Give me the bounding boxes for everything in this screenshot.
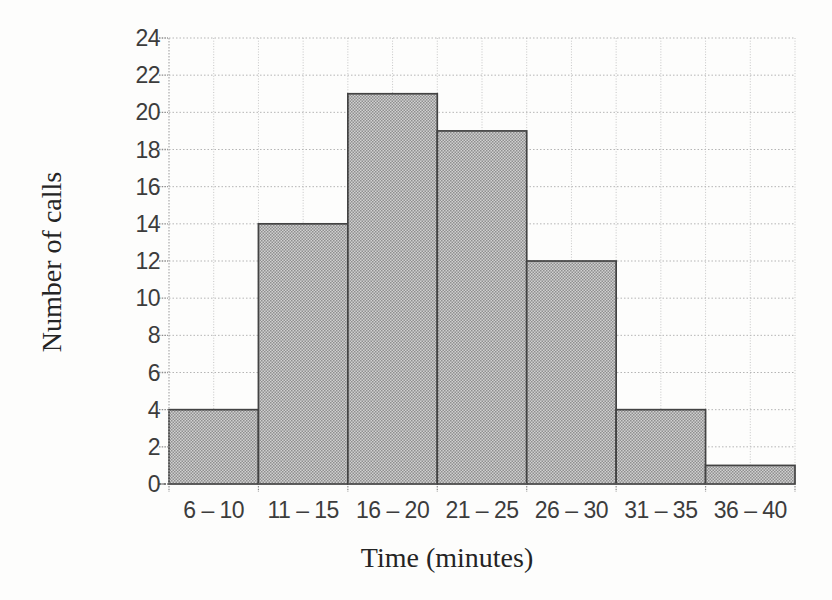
bar-21-25 xyxy=(437,131,526,484)
y-tick-label-0: 0 xyxy=(80,471,160,497)
y-tick-label-24: 24 xyxy=(80,25,160,51)
y-tick-label-8: 8 xyxy=(80,322,160,348)
histogram-bars xyxy=(169,94,795,484)
y-tick-label-22: 22 xyxy=(80,62,160,88)
bar-36-40 xyxy=(706,465,795,484)
y-tick-label-12: 12 xyxy=(80,248,160,274)
y-tick-label-2: 2 xyxy=(80,434,160,460)
bar-16-20 xyxy=(348,94,437,484)
histogram-figure: Number of calls Time (minutes) 024681012… xyxy=(0,0,832,600)
bar-11-15 xyxy=(258,224,347,484)
y-tick-label-10: 10 xyxy=(80,285,160,311)
x-axis-title: Time (minutes) xyxy=(361,542,533,574)
bar-6-10 xyxy=(169,410,258,484)
y-tick-label-4: 4 xyxy=(80,397,160,423)
y-tick-label-14: 14 xyxy=(80,211,160,237)
x-category-label-36-40: 36 – 40 xyxy=(690,497,810,523)
y-axis-title: Number of calls xyxy=(36,172,68,352)
bar-31-35 xyxy=(616,410,705,484)
bar-26-30 xyxy=(527,261,616,484)
y-tick-label-18: 18 xyxy=(80,137,160,163)
y-tick-label-6: 6 xyxy=(80,360,160,386)
y-tick-label-16: 16 xyxy=(80,174,160,200)
y-tick-label-20: 20 xyxy=(80,99,160,125)
